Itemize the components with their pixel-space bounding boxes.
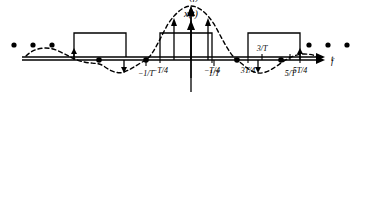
frequency-axis-label: f [331,56,335,66]
tick-label-minus-1-over-t: −1/T [138,69,155,78]
tick-label-3-over-t: 3/T [256,44,268,53]
tick-label-1-over-t: 1/T [209,69,220,78]
impulse-down-right-lobe [255,60,261,73]
bottom-signal-label: X(f) [182,0,199,3]
figure-container: x(t) t −T/4 −T/4 3T/4 5T/4 [0,0,369,224]
impulse-up-plus-half-t [205,18,211,60]
impulse-up-minus-half-t [171,18,177,60]
impulse-up-far-right [297,48,303,60]
tick-label-5-over-t: 5/T [285,69,296,78]
bottom-plot-spectrum: X(f) f −1/T 1/T 3/T 5/T [0,0,369,112]
sinc-envelope [26,6,318,73]
impulse-train [71,6,303,73]
